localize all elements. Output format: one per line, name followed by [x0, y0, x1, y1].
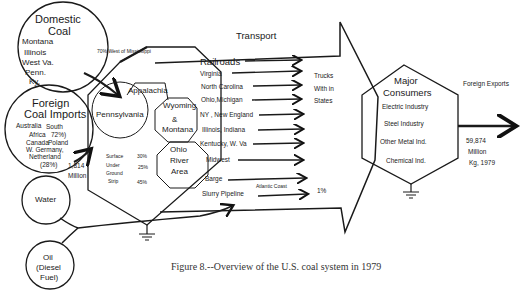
oil-label-3: Fuel) [40, 274, 58, 282]
trucks-label-3: States [314, 98, 332, 105]
mining-method: Surface [106, 154, 123, 159]
consumer-item: Electric Industry [382, 104, 428, 111]
import-origin: Africa [29, 132, 46, 139]
domestic-coal-state: Illinois [24, 49, 46, 57]
import-amount: 1,814 [68, 163, 84, 170]
mining-method: Strip [108, 179, 118, 184]
region-ohio: Ohio [170, 146, 187, 154]
transport-mode: Illinois, Indiana [202, 127, 245, 134]
import-share: (28%) [40, 162, 57, 169]
mining-share: 45% [137, 180, 147, 185]
transport-mode: North Carolina [201, 84, 243, 91]
domestic-coal-state: West Va. [22, 59, 54, 67]
foreign-exports-label: Foreign Exports [463, 81, 509, 88]
import-origin: South [46, 124, 63, 131]
region-ampersand: & [172, 116, 177, 124]
mining-share: 30% [137, 154, 147, 159]
region-pennsylvania: Pennsylvania [96, 111, 144, 119]
consumer-item: Chemical Ind. [386, 158, 426, 165]
region-river: River [170, 157, 189, 165]
region-wyoming: Wyoming [163, 102, 196, 110]
consumer-item: Other Metal Ind. [380, 139, 427, 146]
water-label: Water [35, 196, 56, 204]
figure-caption: Figure 8.--Overview of the U.S. coal sys… [171, 262, 381, 272]
region-montana: Montana [162, 126, 193, 134]
atlantic-coast-note: Atlantic Coast [256, 184, 287, 189]
domestic-coal-title-2: Coal [48, 26, 71, 37]
exports-amount-3: Kg, 1979 [469, 160, 495, 167]
transport-mode: Midwest [206, 157, 230, 164]
oil-label-2: (Diesel [36, 264, 61, 272]
domestic-coal-state: Penn. [25, 69, 46, 77]
consumers-title-2: Consumers [383, 88, 432, 98]
mining-share: 25% [138, 165, 148, 170]
region-area: Area [171, 168, 188, 176]
domestic-coal-title-1: Domestic [35, 14, 81, 25]
transport-mode: Slurry Pipeline [202, 191, 244, 198]
transport-mode: NY , New England [200, 112, 253, 119]
exports-amount-2: Million [468, 149, 486, 156]
consumers-title-1: Major [394, 76, 418, 86]
oil-label-1: Oil [43, 254, 53, 262]
foreign-imports-title-2: Coal Imports [24, 109, 86, 120]
mining-method: Ground [106, 171, 123, 176]
region-appalachia: Appalachia [128, 87, 168, 95]
trucks-label-1: Trucks [314, 73, 333, 80]
transport-mode: Ohio,Michigan [201, 97, 243, 104]
domestic-coal-state: Ky. [29, 78, 40, 86]
coal-system-diagram-lines [0, 0, 525, 298]
transport-mode: Virginia [200, 71, 222, 78]
domestic-coal-state: Montana [22, 38, 53, 46]
consumer-item: Steel Industry [384, 121, 424, 128]
transport-mode: Barge [205, 176, 222, 183]
trucks-label-2: With in [314, 86, 334, 93]
transport-header: Transport [236, 31, 276, 41]
transport-mode: Kentucky, W. Va [200, 141, 247, 148]
west-of-mississippi-note: 70% West of Mississippi [97, 49, 151, 54]
import-share: 72%) [51, 132, 66, 139]
mining-method: Under [106, 163, 120, 168]
pipeline-share: 1% [317, 188, 326, 195]
transport-mode-railroads: Railroads [200, 57, 240, 67]
exports-amount-1: 59,874 [466, 138, 486, 145]
import-origin: Australia [16, 123, 41, 130]
import-amount-unit: Million [68, 173, 86, 180]
import-origin: Netherland [29, 154, 61, 161]
